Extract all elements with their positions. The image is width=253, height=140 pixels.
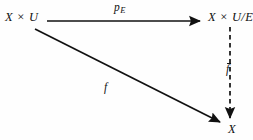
edge-label-induced-text: f: [226, 63, 230, 76]
edge-label-projection: pE: [114, 2, 125, 15]
edge-label-induced: f: [226, 63, 230, 76]
edge-map-arrow: [35, 29, 220, 122]
edge-label-map: f: [104, 82, 108, 94]
edge-label-projection-subscript: E: [120, 5, 125, 15]
node-label-quotient: X × U/E: [208, 11, 253, 24]
node-label-target: X: [228, 123, 236, 136]
commutative-diagram: X × U X × U/E X pE f f: [0, 0, 253, 140]
node-label-source: X × U: [5, 11, 38, 24]
